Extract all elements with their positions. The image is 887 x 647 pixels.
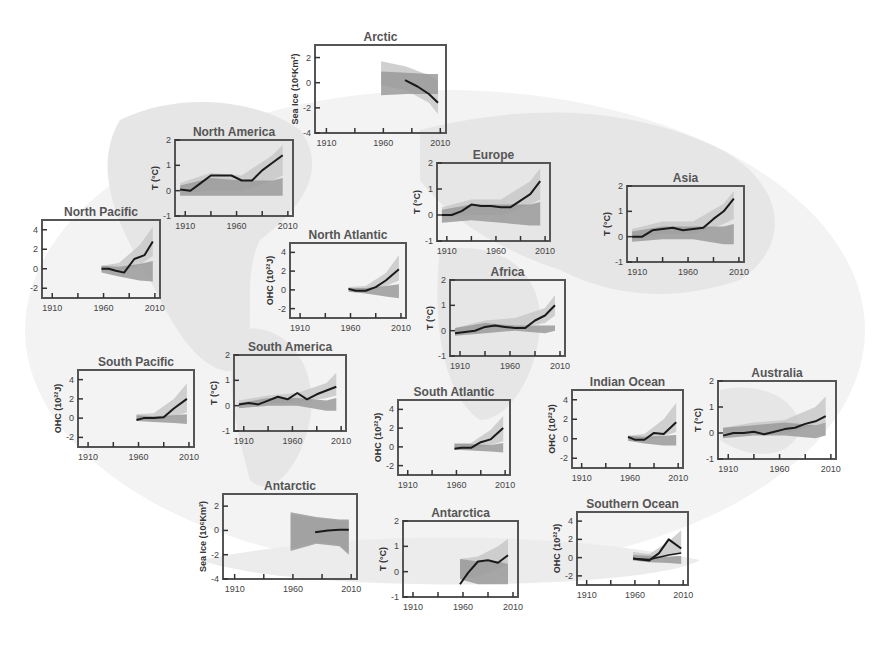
panel-arctic: Arctic20-2-4191019602010Sea Ice (10⁶Km²) [315,45,446,133]
y-axis-label: OHC (10²²J) [265,256,275,306]
x-tick-label: 1910 [42,303,62,313]
panel-australia: Australia210-1191019602010T (°C) [718,381,836,459]
panel-title: Africa [450,265,565,279]
y-axis-label: T (°C) [412,190,422,214]
x-tick-label: 1960 [227,221,247,231]
y-tick-label: -1 [425,236,433,246]
x-tick-label: 1910 [577,590,597,600]
y-tick-label: -1 [438,351,446,361]
y-tick-label: 4 [69,375,74,385]
x-tick-label: 1960 [283,584,303,594]
panel-south-pacific: South Pacific420-2191019602010OHC (10²²J… [78,370,194,447]
x-tick-label: 1910 [437,246,457,256]
x-tick-label: 1960 [94,303,114,313]
y-tick-label: 4 [389,404,394,414]
panel-title: South Pacific [78,355,194,369]
y-tick-label: -1 [163,211,171,221]
y-tick-label: 0 [69,413,74,423]
y-tick-label: 0 [441,326,446,336]
y-axis-label: T (°C) [209,381,219,405]
x-tick-label: 2010 [729,267,749,277]
panel-title: Australia [718,366,836,380]
panel-asia: Asia210-1191019602010T (°C) [627,186,744,262]
panel-title: Antarctica [403,506,518,520]
panel-north-atlantic: North Atlantic420-2191019602010OHC (10²²… [290,243,406,318]
y-tick-label: 1 [441,300,446,310]
panel-south-america: South America210-1191019602010T (°C) [234,355,346,431]
y-tick-label: -4 [211,574,219,584]
x-tick-label: 1960 [500,361,520,371]
x-tick-label: 1910 [398,480,418,490]
y-axis-label: T (°C) [378,547,388,571]
panel-north-america: North America210-1191019602010T (°C) [175,140,293,216]
panel-title: Europe [437,148,550,162]
y-axis-label: T (°C) [150,166,160,190]
x-tick-label: 1960 [373,138,393,148]
y-tick-label: 0 [428,210,433,220]
y-tick-label: 0 [225,401,230,411]
x-tick-label: 1910 [290,323,310,333]
x-tick-label: 1960 [770,464,790,474]
y-axis-label: OHC (10²²J) [53,384,63,434]
y-tick-label: 4 [281,247,286,257]
x-tick-label: 1960 [620,473,640,483]
y-tick-label: 0 [33,264,38,274]
y-tick-label: -1 [615,257,623,267]
natural-band [291,512,349,555]
panel-north-pacific: North Pacific420-2191019602010 [42,220,160,298]
y-tick-label: -2 [565,571,573,581]
y-tick-label: 4 [563,395,568,405]
y-tick-label: -2 [560,453,568,463]
y-axis-label: T (°C) [693,408,703,432]
panel-title: Antarctic [223,479,357,493]
y-tick-label: 2 [428,158,433,168]
y-axis-label: T (°C) [425,306,435,330]
x-tick-label: 1960 [486,246,506,256]
plot-area: 420-2191019602010OHC (10²²J) [78,370,194,447]
plot-area: 210-1191019602010T (°C) [627,186,744,262]
plot-area: 210-1191019602010T (°C) [718,381,836,459]
x-tick-label: 1960 [129,452,149,462]
y-axis-label: Sea Ice (10⁶Km²) [198,501,208,572]
y-tick-label: -2 [278,304,286,314]
panel-title: South Atlantic [398,385,510,399]
panel-title: North America [175,125,293,139]
panel-title: Arctic [315,30,446,44]
x-tick-label: 1910 [718,464,738,474]
x-tick-label: 1910 [450,361,470,371]
x-tick-label: 1910 [316,138,336,148]
x-tick-label: 1910 [175,221,195,231]
x-tick-label: 1960 [625,590,645,600]
x-tick-label: 2010 [821,464,841,474]
panel-title: Indian Ocean [572,375,683,389]
y-tick-label: 2 [394,516,399,526]
x-tick-label: 1960 [678,267,698,277]
y-tick-label: 2 [225,350,230,360]
y-tick-label: 1 [618,206,623,216]
y-axis-label: Sea Ice (10⁶Km²) [290,53,300,124]
y-tick-label: -1 [222,426,230,436]
y-tick-label: 2 [214,501,219,511]
plot-area: 420-2191019602010OHC (10²²J) [577,512,688,585]
y-tick-label: 2 [389,423,394,433]
panel-africa: Africa210-1191019602010T (°C) [450,280,565,356]
y-tick-label: 2 [33,244,38,254]
x-tick-label: 1910 [78,452,98,462]
y-tick-label: 4 [33,225,38,235]
y-tick-label: 0 [568,553,573,563]
y-tick-label: -1 [706,454,714,464]
panel-south-atlantic: South Atlantic420-2191019602010OHC (10²²… [398,400,510,475]
panel-title: Southern Ocean [577,497,688,511]
plot-area: 420-2191019602010OHC (10²²J) [572,390,683,468]
x-tick-label: 2010 [673,590,693,600]
x-tick-label: 2010 [668,473,688,483]
plot-area: 20-2-4191019602010Sea Ice (10⁶Km²) [223,494,357,579]
y-tick-label: 1 [166,160,171,170]
x-tick-label: 2010 [503,602,523,612]
x-tick-label: 2010 [495,480,515,490]
y-tick-label: 0 [214,525,219,535]
y-tick-label: 1 [428,184,433,194]
x-tick-label: 1960 [453,602,473,612]
x-tick-label: 1910 [225,584,245,594]
panel-title: Asia [627,171,744,185]
